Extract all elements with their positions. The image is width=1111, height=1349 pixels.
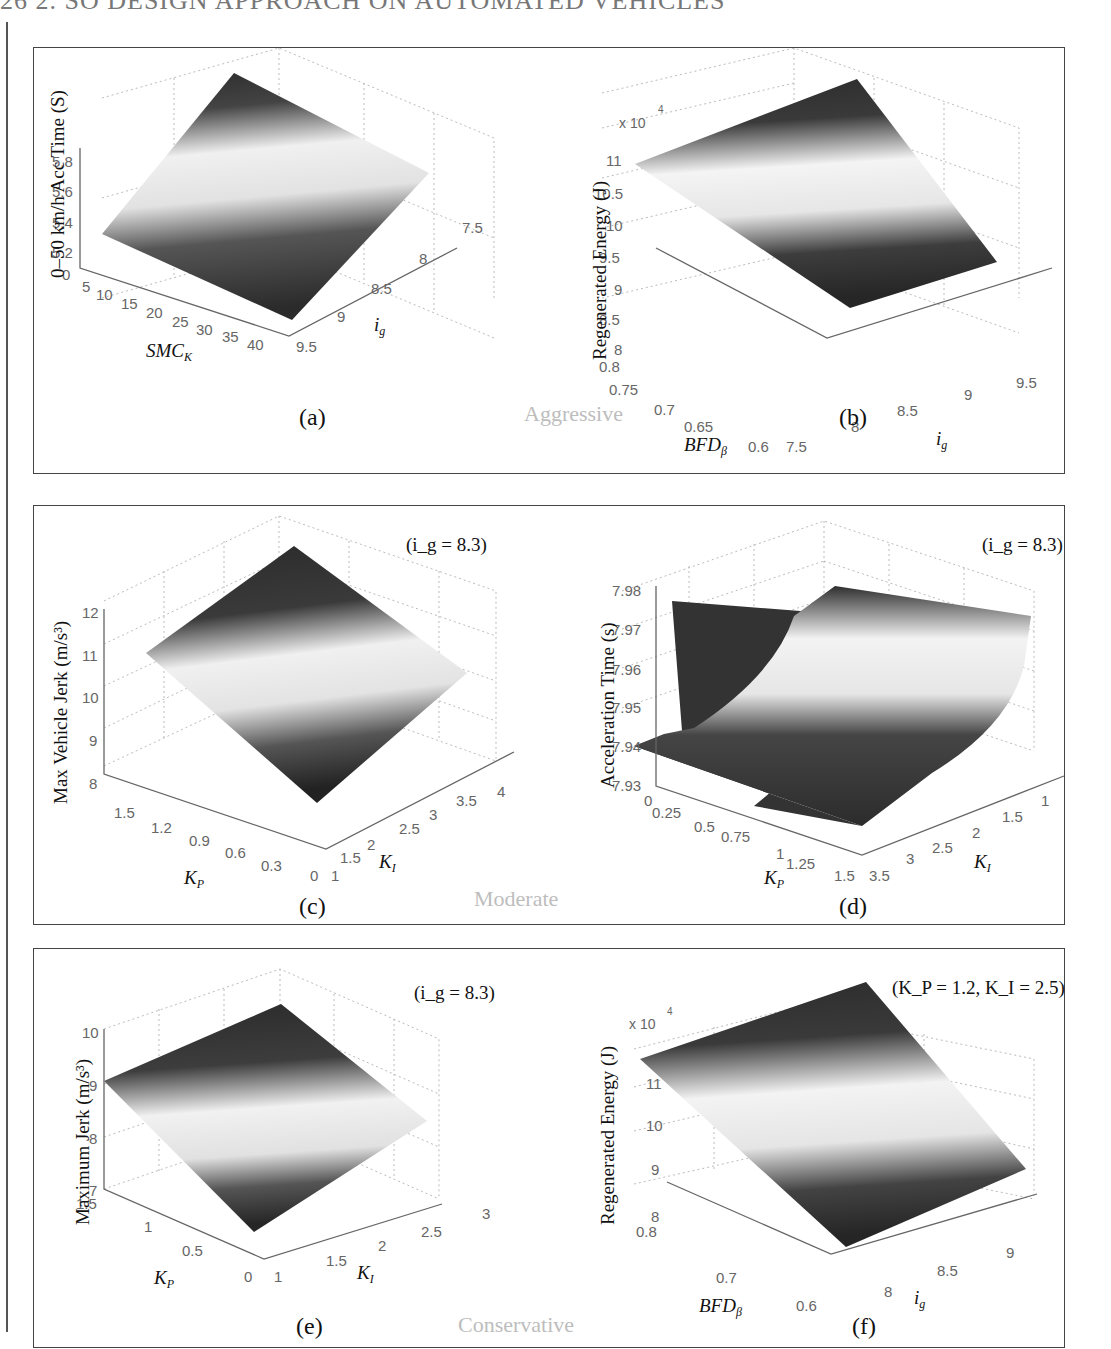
svg-text:15: 15 <box>121 295 138 312</box>
svg-text:KI: KI <box>973 851 992 875</box>
svg-text:Max Vehicle Jerk (m/s³): Max Vehicle Jerk (m/s³) <box>50 621 72 804</box>
svg-text:8.5: 8.5 <box>371 280 392 297</box>
figure-group-conservative: 10 9 8 7 1.5 1 0.5 0 1 1.5 2 2.5 3 Maxim… <box>33 948 1065 1348</box>
svg-text:x 10: x 10 <box>619 115 646 131</box>
svg-text:0.7: 0.7 <box>716 1269 737 1286</box>
svg-text:35: 35 <box>222 328 239 345</box>
svg-text:0.8: 0.8 <box>636 1223 657 1240</box>
svg-text:1: 1 <box>776 845 784 862</box>
svg-text:20: 20 <box>146 304 163 321</box>
svg-text:1.5: 1.5 <box>340 849 361 866</box>
svg-text:0: 0 <box>310 867 318 884</box>
figure-panels-a-b: 5.8 5.6 5.4 5.2 0 5 10 15 20 25 30 35 40… <box>34 48 1066 475</box>
caption-a: (a) <box>299 404 326 430</box>
svg-text:3.5: 3.5 <box>869 867 890 884</box>
chart-e-surface <box>104 1004 427 1232</box>
svg-text:Regenerated Energy (J): Regenerated Energy (J) <box>589 181 611 360</box>
svg-text:0.6: 0.6 <box>225 844 246 861</box>
svg-text:7.5: 7.5 <box>786 438 807 455</box>
svg-text:10: 10 <box>82 689 99 706</box>
figure-panels-e-f: 10 9 8 7 1.5 1 0.5 0 1 1.5 2 2.5 3 Maxim… <box>34 949 1066 1349</box>
figure-panels-c-d: 12 11 10 9 8 1.5 1.2 0.9 0.6 0.3 0 1 1.5… <box>34 506 1066 926</box>
svg-text:11: 11 <box>82 647 98 664</box>
svg-text:11: 11 <box>606 152 622 169</box>
svg-text:2.5: 2.5 <box>399 820 420 837</box>
chart-f-surface <box>640 982 1026 1247</box>
svg-text:10: 10 <box>82 1024 99 1041</box>
group-label-aggressive: Aggressive <box>524 401 623 426</box>
svg-text:8.5: 8.5 <box>937 1262 958 1279</box>
svg-text:0–50 km/h Acc Time (S): 0–50 km/h Acc Time (S) <box>47 90 69 278</box>
svg-text:9: 9 <box>1006 1244 1014 1261</box>
svg-text:4: 4 <box>497 783 505 800</box>
svg-text:3: 3 <box>906 850 914 867</box>
group-label-moderate: Moderate <box>474 886 558 911</box>
svg-text:7.98: 7.98 <box>612 582 641 599</box>
svg-text:1.5: 1.5 <box>326 1252 347 1269</box>
svg-text:9: 9 <box>89 732 97 749</box>
svg-text:9: 9 <box>337 308 345 325</box>
svg-text:10: 10 <box>96 286 113 303</box>
svg-text:0.75: 0.75 <box>609 381 638 398</box>
svg-text:8: 8 <box>89 775 97 792</box>
svg-text:25: 25 <box>172 313 189 330</box>
svg-text:1: 1 <box>144 1218 152 1235</box>
svg-text:8: 8 <box>614 341 622 358</box>
svg-text:ig: ig <box>914 1287 925 1311</box>
svg-text:0.65: 0.65 <box>684 418 713 435</box>
svg-text:2.5: 2.5 <box>421 1223 442 1240</box>
chart-c-surface <box>146 546 467 803</box>
svg-text:3: 3 <box>482 1205 490 1222</box>
svg-text:0.5: 0.5 <box>694 818 715 835</box>
caption-d: (d) <box>839 893 867 919</box>
svg-text:0.6: 0.6 <box>796 1297 817 1314</box>
svg-text:1.2: 1.2 <box>151 819 172 836</box>
svg-text:4: 4 <box>658 104 664 115</box>
svg-text:KP: KP <box>763 867 785 891</box>
svg-text:0.9: 0.9 <box>189 832 210 849</box>
svg-text:9.5: 9.5 <box>1016 374 1037 391</box>
svg-text:x 10: x 10 <box>629 1016 656 1032</box>
svg-text:5: 5 <box>82 278 90 295</box>
group-label-conservative: Conservative <box>458 1312 574 1337</box>
svg-text:Acceleration Time (s): Acceleration Time (s) <box>597 622 619 788</box>
svg-text:9: 9 <box>651 1161 659 1178</box>
svg-text:Regenerated Energy (J): Regenerated Energy (J) <box>597 1046 619 1225</box>
svg-text:ig: ig <box>936 428 947 452</box>
figure-group-moderate: 12 11 10 9 8 1.5 1.2 0.9 0.6 0.3 0 1 1.5… <box>33 505 1065 925</box>
caption-c: (c) <box>299 893 326 919</box>
chart-b-surface <box>635 79 997 308</box>
svg-text:KI: KI <box>356 1262 375 1286</box>
svg-text:1: 1 <box>331 867 339 884</box>
svg-text:0.7: 0.7 <box>654 401 675 418</box>
svg-text:8: 8 <box>884 1283 892 1300</box>
svg-text:3: 3 <box>429 806 437 823</box>
svg-text:2: 2 <box>367 836 375 853</box>
margin-bar <box>6 22 8 1332</box>
svg-text:2: 2 <box>972 824 980 841</box>
svg-text:0.25: 0.25 <box>652 804 681 821</box>
svg-text:1.5: 1.5 <box>1002 808 1023 825</box>
caption-f: (f) <box>852 1313 876 1339</box>
annotation-d: (i_g = 8.3) <box>982 534 1063 556</box>
svg-text:9.5: 9.5 <box>296 338 317 355</box>
svg-text:ig: ig <box>374 314 385 338</box>
svg-text:4: 4 <box>667 1006 673 1017</box>
svg-text:2: 2 <box>378 1237 386 1254</box>
svg-text:9: 9 <box>614 281 622 298</box>
svg-text:1: 1 <box>1041 792 1049 809</box>
svg-text:10: 10 <box>646 1117 663 1134</box>
svg-text:0.6: 0.6 <box>748 438 769 455</box>
annotation-f: (K_P = 1.2, K_I = 2.5) <box>892 977 1065 999</box>
running-header: 26 2. SO DESIGN APPROACH ON AUTOMATED VE… <box>0 0 725 6</box>
svg-text:8: 8 <box>419 250 427 267</box>
svg-text:7.5: 7.5 <box>462 219 483 236</box>
svg-text:0: 0 <box>244 1268 252 1285</box>
svg-text:Maximum Jerk (m/s³): Maximum Jerk (m/s³) <box>72 1059 94 1225</box>
svg-text:1.5: 1.5 <box>114 804 135 821</box>
caption-b: (b) <box>839 404 867 430</box>
svg-text:0.3: 0.3 <box>261 857 282 874</box>
svg-text:BFDβ: BFDβ <box>684 434 727 458</box>
figure-group-aggressive: 5.8 5.6 5.4 5.2 0 5 10 15 20 25 30 35 40… <box>33 47 1065 474</box>
svg-text:KP: KP <box>153 1267 175 1291</box>
